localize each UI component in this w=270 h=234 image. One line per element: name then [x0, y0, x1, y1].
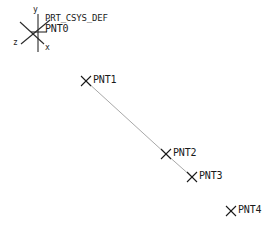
- datum-point-label-pnt0[interactable]: PNT0: [45, 24, 68, 34]
- datum-point-marker-pnt1[interactable]: [81, 76, 91, 86]
- csys-name-label[interactable]: PRT_CSYS_DEF: [45, 14, 108, 23]
- datum-point-label-pnt3[interactable]: PNT3: [199, 171, 222, 181]
- datum-point-label-pnt2[interactable]: PNT2: [173, 148, 196, 158]
- datum-point-label-pnt4[interactable]: PNT4: [238, 205, 261, 215]
- csys-axis-label-z: z: [13, 39, 18, 47]
- model-geometry: [0, 0, 270, 234]
- datum-point-marker-pnt2[interactable]: [161, 149, 171, 159]
- cad-viewport[interactable]: y x z PRT_CSYS_DEF PNT0 PNT1 PNT2 PNT3 P…: [0, 0, 270, 234]
- csys-axis-label-x: x: [45, 44, 50, 52]
- datum-point-marker-pnt4[interactable]: [226, 206, 236, 216]
- datum-point-marker-pnt3[interactable]: [187, 172, 197, 182]
- csys-axis-x: [20, 22, 44, 44]
- csys-axis-label-y: y: [33, 6, 38, 14]
- datum-point-label-pnt1[interactable]: PNT1: [93, 75, 116, 85]
- datum-curve[interactable]: [86, 81, 192, 177]
